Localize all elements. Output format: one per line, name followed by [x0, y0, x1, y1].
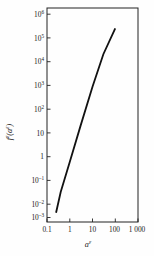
x-tick-label-100: 100 — [109, 225, 120, 234]
x-axis-ticks — [47, 219, 138, 223]
y-tick-label-1em1: 10–1 — [31, 175, 44, 185]
log-log-chart: 106 105 104 103 102 10 1 10–1 10–2 — [0, 0, 154, 256]
y-axis-title: fε(aε) — [4, 124, 14, 141]
y-tick-label-1e2: 102 — [34, 104, 44, 114]
y-tick-label-1em2: 10–2 — [31, 199, 44, 209]
x-tick-label-10: 10 — [89, 225, 97, 234]
x-tick-label-1000: 1 000 — [129, 225, 146, 234]
figure-container: 106 105 104 103 102 10 1 10–1 10–2 — [0, 0, 154, 256]
x-tick-label-0p1: 0.1 — [42, 225, 52, 234]
data-series-line — [56, 28, 115, 212]
y-tick-label-1e6: 106 — [34, 9, 44, 19]
x-tick-labels: 0.1 1 10 100 1 000 — [42, 225, 145, 234]
y-tick-label-1e5: 105 — [34, 33, 44, 43]
x-tick-label-1: 1 — [68, 225, 72, 234]
x-axis-title: aε — [85, 239, 92, 249]
y-axis-ticks — [47, 14, 51, 217]
y-tick-label-1em3: 10–3 — [31, 212, 44, 222]
y-tick-labels: 106 105 104 103 102 10 1 10–1 10–2 — [31, 9, 44, 222]
y-tick-label-1e0: 1 — [40, 152, 44, 161]
y-tick-label-1e3: 103 — [34, 80, 44, 90]
y-tick-label-1e4: 104 — [34, 56, 44, 66]
y-tick-label-1e1: 10 — [37, 129, 45, 138]
